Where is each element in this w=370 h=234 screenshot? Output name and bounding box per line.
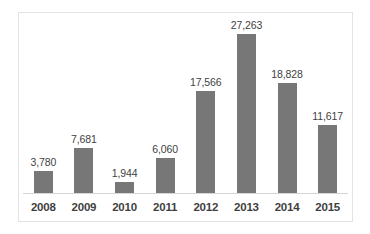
chart-frame: 3,780 7,681 1,944 6,060 17,566 27,263	[18, 12, 353, 222]
bars-layer: 3,780 7,681 1,944 6,060 17,566 27,263	[23, 13, 348, 193]
category-label-2013: 2013	[226, 201, 267, 213]
bar-rect[interactable]	[237, 34, 256, 193]
bar-value-label: 1,944	[112, 168, 138, 179]
bar-rect[interactable]	[318, 125, 337, 193]
bar-rect[interactable]	[156, 158, 175, 193]
plot-area: 3,780 7,681 1,944 6,060 17,566 27,263	[19, 13, 352, 221]
category-label-2012: 2012	[186, 201, 227, 213]
bar-rect[interactable]	[34, 171, 53, 193]
category-label-2008: 2008	[23, 201, 64, 213]
bar-value-label: 7,681	[71, 134, 97, 145]
bar-group[interactable]: 27,263	[226, 13, 267, 193]
bar-group[interactable]: 7,681	[64, 13, 105, 193]
category-label-2011: 2011	[145, 201, 186, 213]
category-axis-line	[23, 193, 348, 194]
bar-rect[interactable]	[115, 182, 134, 193]
bar-value-label: 11,617	[312, 111, 343, 122]
bar-value-label: 27,263	[231, 20, 263, 31]
bar-value-label: 6,060	[152, 144, 178, 155]
bar-group[interactable]: 18,828	[267, 13, 308, 193]
category-label-2009: 2009	[64, 201, 105, 213]
category-axis-labels: 2008 2009 2010 2011 2012 2013 2014 2015	[23, 196, 348, 218]
bar-rect[interactable]	[278, 83, 297, 193]
bar-value-label: 3,780	[30, 157, 56, 168]
category-label-2010: 2010	[104, 201, 145, 213]
category-label-2015: 2015	[307, 201, 348, 213]
bar-rect[interactable]	[196, 91, 215, 193]
bar-value-label: 17,566	[190, 77, 222, 88]
bar-group[interactable]: 1,944	[104, 13, 145, 193]
bar-group[interactable]: 6,060	[145, 13, 186, 193]
category-label-2014: 2014	[267, 201, 308, 213]
bar-group[interactable]: 11,617	[307, 13, 348, 193]
bar-group[interactable]: 3,780	[23, 13, 64, 193]
bar-value-label: 18,828	[271, 69, 303, 80]
bar-rect[interactable]	[74, 148, 93, 193]
bar-group[interactable]: 17,566	[186, 13, 227, 193]
